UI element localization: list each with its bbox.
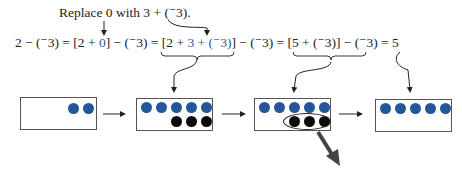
blue-counter — [304, 102, 315, 113]
blue-counter — [83, 103, 94, 114]
blue-counter — [156, 102, 167, 113]
blue-counter — [440, 103, 451, 114]
arrow-to-box2 — [174, 60, 197, 90]
black-counter — [171, 116, 182, 127]
model-box-4 — [375, 99, 452, 132]
blue-counter — [141, 102, 152, 113]
brace-under-zero-pair — [161, 52, 234, 60]
blue-counter — [274, 102, 285, 113]
model-box-2 — [136, 98, 213, 131]
blue-counter — [380, 103, 391, 114]
arrow-to-box4 — [396, 52, 410, 90]
blue-counter — [319, 102, 330, 113]
brace-under-removal — [293, 52, 366, 60]
blue-counter — [68, 103, 79, 114]
connector-overlay — [0, 0, 462, 171]
black-counter — [186, 116, 197, 127]
blue-counter — [171, 102, 182, 113]
black-counter — [201, 116, 212, 127]
model-box-3 — [254, 98, 331, 131]
blue-counter — [289, 102, 300, 113]
blue-counter — [425, 103, 436, 114]
blue-counter — [395, 103, 406, 114]
removal-arrow-shaft — [318, 132, 333, 156]
arrow-to-box3 — [294, 62, 331, 90]
blue-counter — [410, 103, 421, 114]
model-box-1 — [20, 97, 97, 130]
removal-ellipse — [283, 113, 331, 130]
blue-counter — [186, 102, 197, 113]
blue-counter — [201, 102, 212, 113]
blue-counter — [259, 102, 270, 113]
arrow-caption-to-zero-pair — [168, 20, 207, 33]
